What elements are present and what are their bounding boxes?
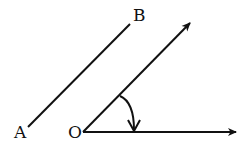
segment-ab [28,24,130,127]
label-b: B [133,5,146,25]
ray-oblique [83,23,190,132]
label-a: A [13,122,27,142]
geometry-diagram: A B O [0,0,247,147]
angle-arc-arrow [120,96,134,130]
label-o: O [68,122,82,142]
